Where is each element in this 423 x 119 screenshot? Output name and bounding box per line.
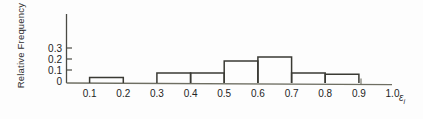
x-tick-label-0.3: 0.3 xyxy=(150,88,164,99)
histogram-bar-0.8-0.9 xyxy=(325,74,359,83)
histogram-bar-0.7-0.8 xyxy=(292,73,326,83)
histogram-bar-0.5-0.6 xyxy=(224,61,258,83)
x-tick-label-0.7: 0.7 xyxy=(285,88,299,99)
y-axis-ticks xyxy=(67,48,73,70)
plot-area xyxy=(0,0,423,119)
histogram-bar-0.4-0.5 xyxy=(191,73,225,83)
x-tick-label-0.1: 0.1 xyxy=(83,88,97,99)
x-axis-label: εi xyxy=(399,92,405,105)
x-axis-line xyxy=(67,83,393,85)
histogram-bars xyxy=(90,57,359,83)
x-tick-label-0.6: 0.6 xyxy=(251,88,265,99)
histogram-bar-0.1-0.2 xyxy=(90,78,124,84)
x-tick-label-0.9: 0.9 xyxy=(352,88,366,99)
x-tick-label-0.4: 0.4 xyxy=(184,88,198,99)
x-axis-label-subscript: i xyxy=(403,98,405,105)
histogram-bar-0.6-0.7 xyxy=(258,57,292,83)
x-tick-label-0.5: 0.5 xyxy=(217,88,231,99)
histogram-bar-0.3-0.4 xyxy=(157,73,191,83)
x-tick-label-0.2: 0.2 xyxy=(116,88,130,99)
histogram-chart: Relative Frequency 0.3 0.2 0.1 0 xyxy=(0,0,423,119)
x-tick-label-0.8: 0.8 xyxy=(318,88,332,99)
x-tick-label-1.0: 1.0 xyxy=(386,88,400,99)
